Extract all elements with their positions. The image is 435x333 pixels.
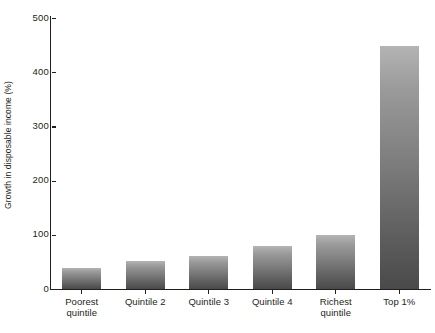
figure-caption <box>6 328 430 333</box>
y-axis-tick: 0 <box>0 289 56 290</box>
y-axis-tick-label: 200 <box>33 174 49 185</box>
y-axis-tick: 100 <box>0 235 56 236</box>
bar <box>316 235 355 289</box>
x-axis-tick-mark <box>272 290 273 294</box>
x-axis-category-label: Top 1% <box>368 297 432 308</box>
x-axis-tick-mark <box>335 290 336 294</box>
x-axis-category-label: Quintile 4 <box>241 297 305 308</box>
bar <box>189 256 228 289</box>
bar <box>126 261 165 289</box>
x-axis-category-label: Quintile 3 <box>177 297 241 308</box>
bar <box>380 46 419 289</box>
y-axis-tick: 300 <box>0 126 56 127</box>
y-axis-tick-label: 0 <box>44 283 49 294</box>
y-axis-tick-label: 400 <box>33 66 49 77</box>
y-axis-tick: 400 <box>0 72 56 73</box>
y-axis-title-text: Growth in disposable income (%) <box>3 81 13 209</box>
bar <box>253 246 292 289</box>
plot-area <box>50 18 429 289</box>
y-axis-title: Growth in disposable income (%) <box>0 0 16 290</box>
bar <box>62 268 101 289</box>
x-axis-tick-mark <box>399 290 400 294</box>
x-axis-category-label: Quintile 2 <box>114 297 178 308</box>
y-axis-tick-mark <box>52 289 56 290</box>
y-axis-tick-label: 300 <box>33 120 49 131</box>
bar-chart-figure: Growth in disposable income (%) 01002003… <box>0 0 435 333</box>
x-axis-tick-mark <box>208 290 209 294</box>
x-axis-line <box>50 289 431 290</box>
x-axis-category-label: Poorest quintile <box>50 297 114 318</box>
x-axis-tick-mark <box>81 290 82 294</box>
y-axis-tick: 500 <box>0 18 56 19</box>
y-axis-tick-label: 500 <box>33 12 49 23</box>
x-axis-tick-mark <box>145 290 146 294</box>
y-axis-tick: 200 <box>0 181 56 182</box>
x-axis-category-label: Richest quintile <box>304 297 368 318</box>
y-axis-tick-label: 100 <box>33 228 49 239</box>
